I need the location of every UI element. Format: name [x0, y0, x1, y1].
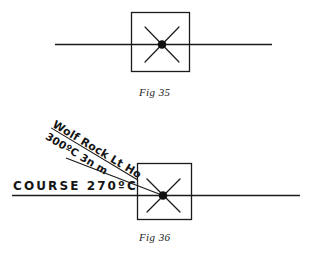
navigation-diagram	[0, 0, 317, 261]
course-bearing-label: COURSE 270ºC	[13, 179, 138, 193]
fig35-group	[55, 13, 272, 72]
fig36-position-dot	[159, 191, 168, 200]
fig35-position-dot	[158, 40, 167, 49]
figure-page: Fig 35 Fig 36 Wolf Rock Lt Ho 300ºC 3n m…	[0, 0, 317, 261]
fig36-caption: Fig 36	[139, 231, 170, 243]
fig35-caption: Fig 35	[139, 86, 170, 98]
